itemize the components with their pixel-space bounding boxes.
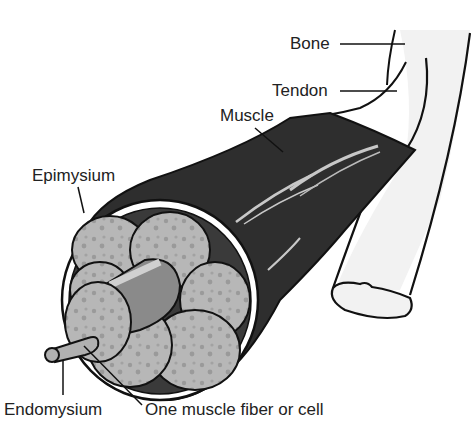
label-muscle-fiber: One muscle fiber or cell	[145, 401, 324, 418]
label-endomysium: Endomysium	[4, 401, 102, 418]
label-bone: Bone	[290, 35, 330, 52]
label-tendon: Tendon	[272, 82, 328, 99]
muscle-diagram	[0, 0, 476, 433]
label-muscle: Muscle	[220, 107, 274, 124]
label-epimysium: Epimysium	[32, 167, 115, 184]
